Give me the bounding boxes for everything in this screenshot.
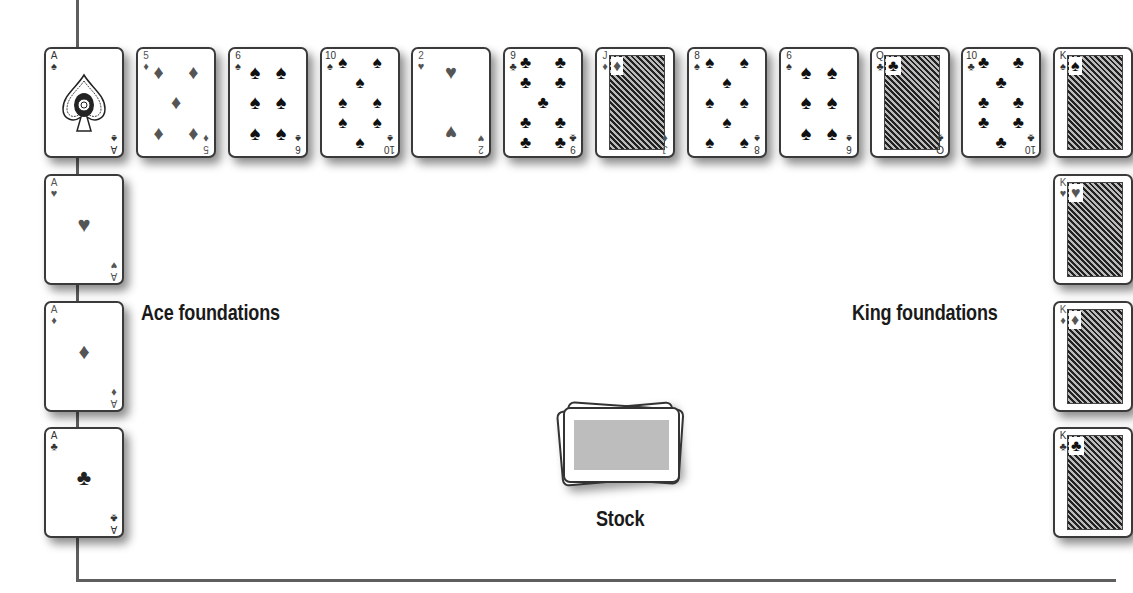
king-foundation-clubs[interactable]: K♣ ♣ bbox=[1053, 427, 1133, 538]
king-foundation-diamonds[interactable]: K♦ ♦ bbox=[1053, 301, 1133, 412]
card-9-of-clubs[interactable]: 9♣ ♣♣ ♣♣ ♣ ♣♣ ♣♣ 9♣ bbox=[503, 47, 583, 158]
spade-icon: ♠ bbox=[1069, 57, 1082, 75]
diamond-icon: ♦ bbox=[109, 388, 119, 398]
card-jack-of-diamonds[interactable]: J♦ ♦ J♦ bbox=[595, 47, 675, 158]
king-foundations-label: King foundations bbox=[852, 300, 998, 326]
spade-icon: ♠ bbox=[705, 53, 714, 73]
spade-icon: ♠ bbox=[338, 53, 347, 73]
club-icon: ♣ bbox=[46, 465, 122, 491]
spade-icon: ♠ bbox=[722, 73, 731, 93]
spade-icon: ♠ bbox=[355, 73, 364, 93]
club-icon: ♣ bbox=[109, 514, 119, 524]
spade-icon: ♠ bbox=[338, 113, 347, 133]
diamond-icon: ♦ bbox=[46, 339, 122, 365]
card-10-of-clubs[interactable]: 10♣ ♣♣ ♣ ♣♣ ♣♣ ♣ ♣♣ 10♣ bbox=[961, 47, 1041, 158]
pip-layout: ♥ ♥ bbox=[425, 57, 477, 148]
heart-icon: ♥ bbox=[109, 261, 119, 271]
club-icon: ♣ bbox=[520, 53, 531, 73]
spade-icon: ♠ bbox=[722, 113, 731, 133]
diamond-icon: ♦ bbox=[1069, 311, 1081, 329]
card-queen-of-clubs[interactable]: Q♣ ♣ Q♣ bbox=[870, 47, 950, 158]
king-face-illustration: ♠ bbox=[1067, 55, 1123, 150]
club-icon: ♣ bbox=[520, 73, 531, 93]
club-icon: ♣ bbox=[555, 133, 566, 153]
card-6-of-spades[interactable]: 6♠ ♠♠ ♠♠ ♠♠ 6♠ bbox=[228, 47, 308, 158]
club-icon: ♣ bbox=[555, 53, 566, 73]
heart-icon: ♥ bbox=[445, 123, 457, 143]
spade-icon: ♠ bbox=[752, 134, 762, 144]
spade-icon: ♠ bbox=[801, 62, 812, 82]
stock-card-top[interactable] bbox=[563, 407, 680, 483]
ornate-spade-icon bbox=[61, 73, 107, 133]
spade-icon: ♠ bbox=[844, 134, 854, 144]
diamond-icon: ♦ bbox=[49, 315, 59, 325]
pip-layout: ♠♠ ♠♠ ♠♠ bbox=[793, 57, 845, 148]
spade-icon: ♠ bbox=[276, 92, 287, 112]
spade-icon: ♠ bbox=[49, 61, 59, 71]
ace-foundation-hearts[interactable]: A♥ ♥ A♥ bbox=[44, 174, 124, 285]
spade-icon: ♠ bbox=[801, 123, 812, 143]
stock-label: Stock bbox=[596, 506, 644, 532]
spade-icon: ♠ bbox=[355, 133, 364, 153]
king-foundation-hearts[interactable]: K♥ ♥ bbox=[1053, 174, 1133, 285]
club-icon: ♣ bbox=[555, 113, 566, 133]
card-king-of-spades[interactable]: K♠ ♠ bbox=[1053, 47, 1133, 158]
ace-foundation-clubs[interactable]: A♣ ♣ A♣ bbox=[44, 427, 124, 538]
ace-foundation-diamonds[interactable]: A♦ ♦ A♦ bbox=[44, 301, 124, 412]
spade-icon: ♠ bbox=[740, 53, 749, 73]
spade-icon: ♠ bbox=[705, 93, 714, 113]
pip-layout: ♠♠ ♠ ♠♠ ♠♠ ♠ ♠♠ bbox=[334, 53, 386, 152]
club-icon: ♣ bbox=[568, 134, 578, 144]
club-icon: ♣ bbox=[1013, 93, 1024, 113]
diamond-icon: ♦ bbox=[660, 134, 670, 144]
spade-icon: ♠ bbox=[373, 93, 382, 113]
diamond-icon: ♦ bbox=[171, 92, 181, 112]
stock-pile[interactable] bbox=[555, 400, 705, 495]
spade-icon: ♠ bbox=[373, 53, 382, 73]
pip-layout: ♠♠ ♠ ♠♠ ♠ ♠♠ bbox=[701, 53, 753, 152]
club-icon: ♣ bbox=[555, 73, 566, 93]
card-5-of-diamonds[interactable]: 5♦ ♦♦ ♦ ♦♦ 5♦ bbox=[136, 47, 216, 158]
card-back-pattern bbox=[574, 420, 669, 470]
club-icon: ♣ bbox=[995, 73, 1006, 93]
club-icon: ♣ bbox=[1013, 113, 1024, 133]
spade-icon: ♠ bbox=[250, 123, 261, 143]
club-icon: ♣ bbox=[1013, 53, 1024, 73]
queen-face-illustration: ♣ bbox=[884, 55, 940, 150]
king-face-illustration: ♣ bbox=[1067, 435, 1123, 530]
spade-icon: ♠ bbox=[385, 134, 395, 144]
card-6-of-spades-2[interactable]: 6♠ ♠♠ ♠♠ ♠♠ 6♠ bbox=[779, 47, 859, 158]
diamond-icon: ♦ bbox=[154, 123, 164, 143]
club-icon: ♣ bbox=[978, 153, 989, 158]
table-frame-bottom bbox=[76, 579, 1116, 582]
card-8-of-spades[interactable]: 8♠ ♠♠ ♠ ♠♠ ♠ ♠♠ 8♠ bbox=[687, 47, 767, 158]
diamond-icon: ♦ bbox=[188, 123, 198, 143]
spade-icon: ♠ bbox=[250, 92, 261, 112]
heart-icon: ♥ bbox=[445, 62, 457, 82]
pip-layout: ♣♣ ♣ ♣♣ ♣♣ ♣ ♣♣ bbox=[975, 53, 1027, 152]
club-icon: ♣ bbox=[1069, 437, 1084, 455]
spade-icon: ♠ bbox=[801, 92, 812, 112]
card-10-of-spades[interactable]: 10♠ ♠♠ ♠ ♠♠ ♠♠ ♠ ♠♠ 10♠ bbox=[320, 47, 400, 158]
club-icon: ♣ bbox=[886, 57, 901, 75]
diamond-icon: ♦ bbox=[188, 62, 198, 82]
spade-icon: ♠ bbox=[827, 92, 838, 112]
club-icon: ♣ bbox=[520, 133, 531, 153]
spade-icon: ♠ bbox=[373, 113, 382, 133]
spade-icon: ♠ bbox=[276, 62, 287, 82]
card-2-of-hearts[interactable]: 2♥ ♥ ♥ 2♥ bbox=[411, 47, 491, 158]
club-icon: ♣ bbox=[537, 93, 548, 113]
jack-face-illustration: ♦ bbox=[609, 55, 665, 150]
spade-icon: ♠ bbox=[250, 62, 261, 82]
king-face-illustration: ♥ bbox=[1067, 182, 1123, 277]
club-icon: ♣ bbox=[1026, 134, 1036, 144]
spade-icon: ♠ bbox=[109, 134, 119, 144]
spade-icon: ♠ bbox=[827, 62, 838, 82]
spade-icon: ♠ bbox=[293, 134, 303, 144]
heart-icon: ♥ bbox=[476, 134, 486, 144]
club-icon: ♣ bbox=[1013, 153, 1024, 158]
spade-icon: ♠ bbox=[740, 133, 749, 153]
king-face-illustration: ♦ bbox=[1067, 309, 1123, 404]
card-ace-of-spades[interactable]: A♠ A♠ bbox=[44, 47, 124, 158]
club-icon: ♣ bbox=[978, 93, 989, 113]
